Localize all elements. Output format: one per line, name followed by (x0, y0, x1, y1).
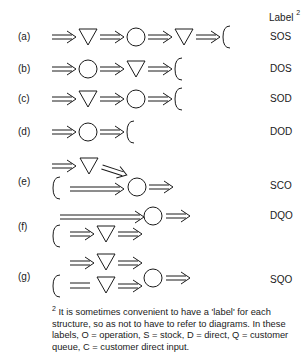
stock-triangle-icon (79, 29, 97, 45)
flow-diagrams (0, 0, 308, 305)
diagram-row-d (52, 121, 134, 143)
diagram-row-c (52, 88, 182, 110)
arrow-icon (100, 31, 124, 43)
diagram-row-a (52, 26, 230, 48)
diagram-row-f (53, 207, 190, 247)
stock-triangle-icon (175, 29, 193, 45)
customer-bracket-icon (223, 26, 230, 48)
footnote-text: It is sometimes convenient to have a 'la… (52, 307, 288, 352)
footnote: 2 It is sometimes convenient to have a '… (52, 303, 302, 353)
arrow-icon (52, 31, 76, 43)
footnote-marker: 2 (52, 305, 56, 312)
diagram-row-e (52, 158, 173, 199)
diagram-row-g (53, 254, 190, 297)
arrow-icon (148, 31, 172, 43)
arrow-icon (196, 31, 220, 43)
diagram-row-b (52, 58, 182, 80)
operation-circle-icon (127, 28, 145, 46)
